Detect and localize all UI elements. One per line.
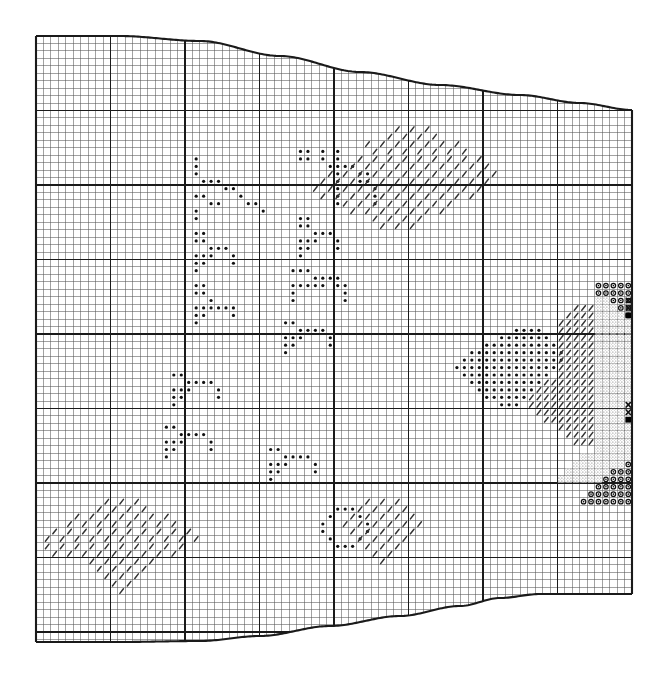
- cell-symbol-dot: [515, 388, 518, 391]
- cell-symbol-dot: [180, 440, 183, 443]
- cell-symbol-dot: [195, 381, 198, 384]
- cell-symbol-dot: [485, 396, 488, 399]
- cell-symbol-dot: [209, 247, 212, 250]
- circle-center: [613, 493, 615, 495]
- cell-symbol-stipple: [603, 379, 610, 386]
- cell-symbol-dot: [485, 381, 488, 384]
- cell-symbol-stipple: [603, 424, 610, 431]
- circle-center: [627, 486, 629, 488]
- circle-center: [627, 285, 629, 287]
- cell-symbol-dot: [507, 358, 510, 361]
- cell-symbol-stipple: [610, 454, 617, 461]
- cell-symbol-dot: [522, 366, 525, 369]
- symbol-group-stipple-fill: [595, 342, 631, 378]
- circle-center: [605, 486, 607, 488]
- cell-symbol-dot: [336, 172, 339, 175]
- cell-symbol-stipple: [573, 469, 580, 476]
- cell-symbol-dot: [224, 306, 227, 309]
- circle-center: [620, 493, 622, 495]
- cell-symbol-stipple: [625, 327, 632, 334]
- circle-center: [620, 471, 622, 473]
- cell-symbol-stipple: [618, 327, 625, 334]
- cell-symbol-dot: [195, 284, 198, 287]
- cell-symbol-stipple: [595, 312, 602, 319]
- cell-symbol-dot: [545, 373, 548, 376]
- cell-symbol-dot: [209, 440, 212, 443]
- cell-symbol-dot: [493, 344, 496, 347]
- cell-symbol-dot: [217, 202, 220, 205]
- cell-symbol-dot: [232, 314, 235, 317]
- cell-symbol-dot: [217, 396, 220, 399]
- cell-symbol-stipple: [595, 446, 602, 453]
- cell-symbol-dot: [537, 336, 540, 339]
- cell-symbol-dot: [485, 351, 488, 354]
- cell-symbol-dot: [530, 358, 533, 361]
- cell-symbol-dot: [202, 239, 205, 242]
- circle-center: [613, 292, 615, 294]
- cell-symbol-dot: [507, 381, 510, 384]
- cell-symbol-dot: [165, 455, 168, 458]
- cell-symbol-dot: [306, 329, 309, 332]
- cell-symbol-stipple: [625, 342, 632, 349]
- cell-symbol-stipple: [580, 461, 587, 468]
- cell-symbol-stipple: [595, 320, 602, 327]
- cell-symbol-dot: [485, 366, 488, 369]
- cell-symbol-stipple: [610, 357, 617, 364]
- cell-symbol-dot: [463, 366, 466, 369]
- cell-symbol-stipple: [588, 454, 595, 461]
- cell-symbol-dot: [202, 314, 205, 317]
- cell-symbol-stipple: [625, 454, 632, 461]
- circle-center: [620, 501, 622, 503]
- cell-symbol-dot: [329, 515, 332, 518]
- cell-symbol-dot: [552, 358, 555, 361]
- cell-symbol-dot: [500, 396, 503, 399]
- cell-symbol-stipple: [588, 469, 595, 476]
- circle-center: [605, 501, 607, 503]
- cell-symbol-dot: [314, 463, 317, 466]
- circle-center: [605, 478, 607, 480]
- cell-symbol-dot: [269, 448, 272, 451]
- cell-symbol-dot: [470, 366, 473, 369]
- cell-symbol-dot: [537, 344, 540, 347]
- cell-symbol-dot: [269, 463, 272, 466]
- cell-symbol-dot: [306, 224, 309, 227]
- cell-symbol-stipple: [618, 342, 625, 349]
- cell-symbol-dot: [500, 373, 503, 376]
- cell-symbol-dot: [515, 381, 518, 384]
- circle-center: [627, 471, 629, 473]
- cell-symbol-stipple: [595, 416, 602, 423]
- cell-symbol-dot: [493, 351, 496, 354]
- cell-symbol-dot: [336, 247, 339, 250]
- cell-symbol-dot: [493, 358, 496, 361]
- cell-symbol-stipple: [595, 424, 602, 431]
- cell-symbol-stipple: [603, 409, 610, 416]
- cell-symbol-stipple: [595, 379, 602, 386]
- cell-symbol-dot: [344, 545, 347, 548]
- cell-symbol-dot: [299, 224, 302, 227]
- cell-symbol-dot: [545, 351, 548, 354]
- cell-symbol-solid: [625, 312, 631, 318]
- cell-symbol-dot: [515, 329, 518, 332]
- cell-symbol-dot: [500, 403, 503, 406]
- cell-symbol-stipple: [618, 439, 625, 446]
- cell-symbol-dot: [209, 202, 212, 205]
- cell-symbol-stipple: [618, 461, 625, 468]
- cell-symbol-dot: [321, 329, 324, 332]
- cell-symbol-stipple: [618, 379, 625, 386]
- cell-symbol-stipple: [618, 402, 625, 409]
- cell-symbol-dot: [500, 381, 503, 384]
- cell-symbol-dot: [522, 336, 525, 339]
- cell-symbol-dot: [306, 157, 309, 160]
- cell-symbol-dot: [232, 306, 235, 309]
- cell-symbol-dot: [172, 396, 175, 399]
- cell-symbol-stipple: [603, 349, 610, 356]
- circle-center: [613, 478, 615, 480]
- cell-symbol-dot: [552, 366, 555, 369]
- circle-center: [613, 486, 615, 488]
- cell-symbol-dot: [202, 262, 205, 265]
- cell-symbol-dot: [209, 254, 212, 257]
- cell-symbol-stipple: [603, 372, 610, 379]
- circle-center: [620, 292, 622, 294]
- cell-symbol-stipple: [625, 334, 632, 341]
- cell-symbol-dot: [172, 403, 175, 406]
